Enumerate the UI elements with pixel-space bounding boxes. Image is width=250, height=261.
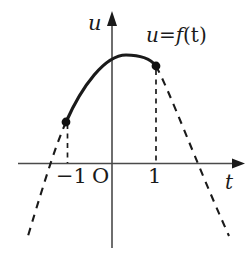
function-label-u: u: [146, 23, 159, 47]
t-axis: [18, 159, 245, 169]
u-axis-arrowhead: [107, 11, 117, 26]
u-axis-label: u: [88, 13, 102, 34]
function-label-equals: =: [159, 23, 176, 47]
plot-canvas: [0, 0, 250, 261]
curve-solid: [66, 55, 156, 122]
math-figure: u t O −1 1 u=f(t): [0, 0, 250, 261]
function-label: u=f(t): [146, 25, 207, 45]
left-endpoint-dot: [62, 118, 71, 127]
tick-label-negative-one: −1: [56, 166, 87, 187]
t-axis-arrowhead: [232, 159, 245, 169]
t-axis-label: t: [225, 172, 233, 192]
function-label-f: f: [176, 23, 183, 47]
function-label-arg: (t): [183, 23, 207, 47]
tick-label-one: 1: [148, 166, 161, 187]
origin-label: O: [92, 166, 109, 187]
curve-dashed-right: [156, 66, 229, 236]
u-axis: [107, 11, 117, 248]
right-endpoint-dot: [152, 62, 161, 71]
